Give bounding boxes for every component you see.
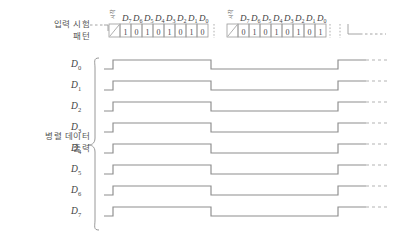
hdr-bit-4: D3 [165, 13, 176, 24]
waveform-path-d0 [104, 60, 366, 69]
bit-value-0-frame-1: 1 [124, 28, 128, 37]
waveform-path-d3 [104, 123, 366, 132]
waveform-path-d5 [104, 165, 366, 174]
input-test-pattern-line1: 입력 시험 [6, 18, 90, 30]
bit-value-6-frame-1: 1 [190, 28, 194, 37]
signal-label-d7: D7 [70, 206, 82, 218]
bit-value-7-frame-1: 0 [201, 28, 205, 37]
hdr2-bit-6: D1 [305, 13, 316, 24]
hdr-bit-3: D4 [154, 13, 165, 24]
bit-value-5-frame-2: 1 [297, 28, 301, 37]
input-leadin-step [104, 25, 108, 31]
waveform-path-d4 [104, 144, 366, 153]
bit-value-7-frame-2: 1 [319, 28, 323, 37]
parallel-data-output-line1: 병렬 데이터 [2, 130, 90, 142]
waveform-row-d4: D4 [70, 143, 388, 155]
waveform-path-d7 [104, 207, 366, 216]
waveform-row-d3: D3 [70, 122, 388, 134]
bit-value-5-frame-1: 0 [179, 28, 183, 37]
hdr-bit-6: D1 [187, 13, 198, 24]
serial-frame-1-header: D7 D6 D5 D4 D3 D2 D1 D0 [121, 13, 209, 24]
waveform-path-d6 [104, 186, 366, 195]
hdr-bit-5: D2 [176, 13, 187, 24]
parallel-data-output-line2: 출력 [2, 142, 90, 154]
start-marker-label-frame-2: 시작 [227, 9, 234, 19]
signal-label-d0: D0 [70, 59, 81, 71]
hdr2-bit-4: D3 [283, 13, 294, 24]
hdr2-bit-2: D5 [261, 13, 272, 24]
hdr2-bit-0: D7 [239, 13, 250, 24]
signal-label-d1: D1 [70, 80, 81, 92]
hdr2-bit-7: D0 [316, 13, 327, 24]
waveform-row-d6: D6 [70, 185, 388, 197]
waveform-row-d5: D5 [70, 164, 388, 176]
hdr-bit-0: D7 [121, 13, 132, 24]
input-tail-step [348, 24, 360, 34]
start-cell-slash-frame-1 [110, 25, 119, 36]
serial-input-row: D7 D6 D5 D4 D3 D2 D1 D0 시작 [90, 9, 386, 38]
output-waveforms: D0 D1 D2 D3 [70, 59, 388, 218]
serial-frame-2-header: D7 D6 D5 D4 D3 D2 D1 D0 [239, 13, 327, 24]
input-test-pattern-line2: 패턴 [6, 30, 90, 42]
waveform-row-d0: D0 [70, 59, 388, 71]
waveform-row-d1: D1 [70, 80, 388, 92]
signal-label-d5: D5 [70, 164, 81, 176]
hdr-bit-1: D6 [132, 13, 143, 24]
hdr2-bit-3: D4 [272, 13, 283, 24]
bit-value-4-frame-2: 0 [286, 28, 290, 37]
serial-frame-1: D7 D6 D5 D4 D3 D2 D1 D0 시작 [109, 9, 209, 37]
bit-value-4-frame-1: 1 [168, 28, 172, 37]
waveform-path-d2 [104, 102, 366, 111]
bit-value-2-frame-1: 1 [146, 28, 150, 37]
waveform-row-d2: D2 [70, 101, 388, 113]
bit-value-2-frame-2: 0 [264, 28, 268, 37]
bit-value-3-frame-2: 1 [275, 28, 279, 37]
bit-value-1-frame-2: 1 [253, 28, 257, 37]
bit-value-3-frame-1: 0 [157, 28, 161, 37]
hdr-bit-2: D5 [143, 13, 154, 24]
bit-value-6-frame-2: 0 [308, 28, 312, 37]
waveform-row-d7: D7 [70, 206, 388, 218]
hdr2-bit-5: D2 [294, 13, 305, 24]
signal-label-d2: D2 [70, 101, 81, 113]
waveform-path-d1 [104, 81, 366, 90]
bit-value-0-frame-2: 0 [242, 28, 246, 37]
bit-value-1-frame-1: 0 [135, 28, 139, 37]
hdr2-bit-1: D6 [250, 13, 261, 24]
serial-frame-2: D7 D6 D5 D4 D3 D2 D1 D0 시작 [227, 9, 327, 37]
timing-diagram-figure: 입력 시험 패턴 병렬 데이터 출력 D7 D6 D5 D4 D3 D2 D [0, 0, 395, 235]
signal-label-d6: D6 [70, 185, 82, 197]
start-cell-slash-frame-2 [228, 25, 237, 36]
start-marker-label-frame-1: 시작 [109, 9, 116, 19]
parallel-data-output-label: 병렬 데이터 출력 [2, 130, 90, 154]
input-test-pattern-label: 입력 시험 패턴 [6, 18, 90, 42]
hdr-bit-7: D0 [198, 13, 209, 24]
